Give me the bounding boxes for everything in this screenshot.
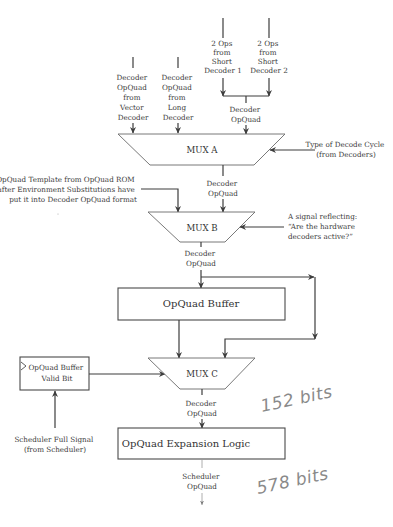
long-input-label: Decoder OpQuad from Long Decoder	[162, 73, 195, 122]
mux-c-output: Decoder OpQuad	[186, 389, 219, 428]
rom-input-arrow-icon	[141, 189, 178, 212]
long-decoder-input: Decoder OpQuad from Long Decoder	[162, 57, 195, 133]
final-output-label: Scheduler OpQuad	[182, 472, 221, 491]
mux-c-output-label: Decoder OpQuad	[186, 399, 219, 418]
mux-c: MUX C	[148, 358, 255, 389]
mux-b-output: Decoder OpQuad	[185, 242, 218, 288]
short-merged-label: Decoder OpQuad	[230, 105, 263, 124]
mux-b-label: MUX B	[186, 223, 217, 233]
vector-decoder-input: Decoder OpQuad from Vector Decoder	[117, 57, 150, 133]
bits-in-annotation: 152 bits	[259, 381, 334, 416]
opquad-buffer: OpQuad Buffer	[118, 288, 285, 320]
mux-a-control-label: Type of Decode Cycle (from Decoders)	[305, 140, 386, 159]
mux-b-control: A signal reflecting: “Are the hardware d…	[240, 212, 359, 241]
bypass-to-mux-c-arrow-icon	[225, 339, 315, 358]
mux-b: MUX B	[148, 212, 255, 242]
scheduler-full-signal: Scheduler Full Signal (from Scheduler)	[14, 391, 95, 454]
mux-b-output-label: Decoder OpQuad	[185, 249, 218, 268]
rom-template-input: OpQuad Template from OpQuad ROM after En…	[0, 175, 178, 215]
mux-a-output: Decoder OpQuad	[207, 165, 240, 212]
valid-bit-register: OpQuad Buffer Valid Bit	[20, 357, 165, 390]
mux-b-control-label: A signal reflecting: “Are the hardware d…	[287, 212, 359, 241]
opquad-expansion-logic: OpQuad Expansion Logic	[118, 428, 285, 459]
short2-input-label: 2 Ops from Short Decoder 2	[250, 39, 288, 75]
mux-a-label: MUX A	[186, 145, 218, 155]
scheduler-signal-label: Scheduler Full Signal (from Scheduler)	[14, 435, 95, 454]
pipeline-diagram: Decoder OpQuad from Vector Decoder Decod…	[0, 0, 393, 527]
vector-input-label: Decoder OpQuad from Vector Decoder	[117, 73, 150, 122]
short-decoders-merge: Decoder OpQuad	[223, 96, 269, 134]
stray-dot	[58, 214, 59, 215]
short-decoder-1-input: 2 Ops from Short Decoder 1	[204, 18, 242, 96]
mux-c-label: MUX C	[186, 369, 218, 379]
opquad-buffer-label: OpQuad Buffer	[163, 298, 240, 309]
bits-out-annotation: 578 bits	[255, 463, 330, 498]
final-output: Scheduler OpQuad	[182, 459, 221, 505]
mux-a-output-label: Decoder OpQuad	[207, 179, 240, 198]
mux-a: MUX A	[118, 134, 285, 165]
expansion-logic-label: OpQuad Expansion Logic	[122, 438, 251, 449]
rom-input-label: OpQuad Template from OpQuad ROM after En…	[0, 175, 137, 204]
short-decoder-2-input: 2 Ops from Short Decoder 2	[250, 18, 288, 96]
mux-a-control: Type of Decode Cycle (from Decoders)	[270, 140, 387, 159]
short1-input-label: 2 Ops from Short Decoder 1	[204, 39, 242, 75]
